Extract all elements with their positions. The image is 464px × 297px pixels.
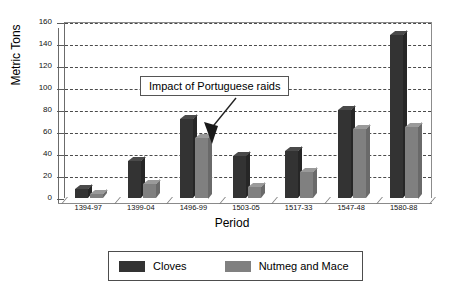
legend-item-nutmeg-and-mace: Nutmeg and Mace (225, 260, 349, 272)
bar-nutmeg-and-mace (300, 172, 313, 198)
bar-cloves (233, 156, 246, 198)
y-axis-tick-label: 120 (39, 62, 52, 70)
bar-cloves (180, 119, 193, 198)
chart-figure: Metric Tons 020406080100120140160 1394-9… (0, 0, 464, 297)
bar-group (328, 22, 381, 198)
y-axis-tick (57, 67, 64, 68)
y-axis-tick-label: 160 (39, 18, 52, 26)
x-axis-title: Period (0, 216, 464, 230)
bar-group (65, 22, 118, 198)
x-axis-tick (429, 197, 444, 204)
x-axis-tick-label: 1496-99 (180, 203, 208, 212)
y-axis-tick-label: 60 (43, 128, 52, 136)
bar-cloves (285, 151, 298, 198)
bar-cloves (128, 161, 141, 198)
plot-area (64, 22, 432, 198)
y-axis-tick (57, 89, 64, 90)
bar-group (118, 22, 171, 198)
bar-nutmeg-and-mace (195, 138, 208, 199)
legend-item-cloves: Cloves (119, 260, 187, 272)
bar-nutmeg-and-mace (353, 129, 366, 198)
y-axis-tick (57, 177, 64, 178)
bar-cloves (390, 35, 403, 198)
legend-label-nutmeg-and-mace: Nutmeg and Mace (259, 260, 349, 272)
legend-swatch-cloves (119, 261, 145, 272)
y-axis-tick-label: 20 (43, 172, 52, 180)
bar-nutmeg-and-mace (248, 187, 261, 198)
y-axis-tick (57, 45, 64, 46)
y-axis-tick (57, 133, 64, 134)
x-axis-tick-label: 1394-97 (75, 203, 103, 212)
bar-nutmeg-and-mace (143, 184, 156, 198)
y-axis-tick (57, 111, 64, 112)
x-axis-tick-label: 1399-04 (127, 203, 155, 212)
y-axis-tick-label: 140 (39, 40, 52, 48)
bar-nutmeg-and-mace (405, 127, 418, 199)
bar-cloves (75, 189, 88, 198)
bar-cloves (338, 110, 351, 198)
y-axis-tick-labels: 020406080100120140160 (0, 0, 62, 297)
y-axis-tick-label: 0 (48, 194, 52, 202)
x-axis-tick-label: 1517-33 (285, 203, 313, 212)
x-axis-tick-label: 1547-48 (337, 203, 365, 212)
x-axis-tick-label: 1503-05 (232, 203, 260, 212)
x-axis-tick-label: 1580-88 (390, 203, 418, 212)
bar-nutmeg-and-mace (90, 194, 103, 198)
legend-label-cloves: Cloves (153, 260, 187, 272)
y-axis-tick (57, 155, 64, 156)
bar-group (223, 22, 276, 198)
legend-swatch-nutmeg-and-mace (225, 261, 251, 272)
y-axis-tick (57, 23, 64, 24)
y-axis-tick-label: 100 (39, 84, 52, 92)
y-axis-tick-label: 40 (43, 150, 52, 158)
bar-group (170, 22, 223, 198)
chart-legend: Cloves Nutmeg and Mace (108, 251, 363, 281)
bar-group (380, 22, 433, 198)
y-axis-tick-label: 80 (43, 106, 52, 114)
annotation-callout: Impact of Portuguese raids (140, 76, 289, 96)
bar-group (275, 22, 328, 198)
